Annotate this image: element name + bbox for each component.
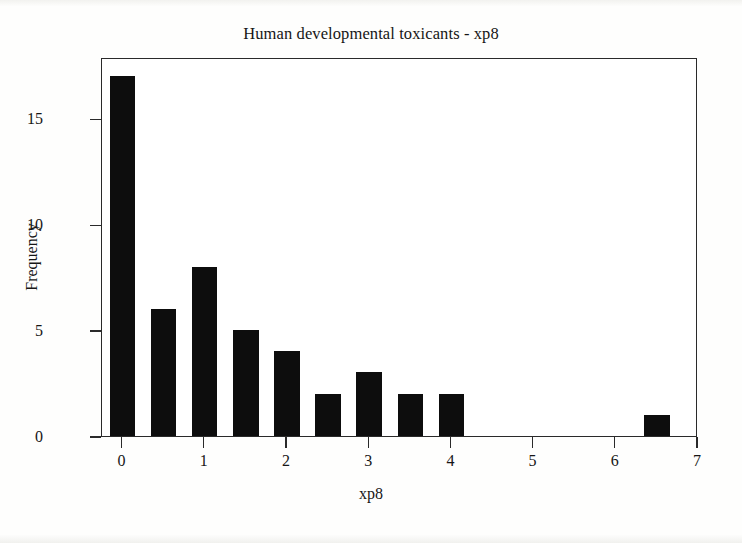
y-tick-label: 15	[27, 110, 43, 128]
bar	[110, 76, 135, 436]
bar	[192, 267, 217, 436]
x-axis: 01234567 xp8	[0, 437, 742, 543]
x-tick-label: 3	[364, 452, 372, 470]
plot-frame	[101, 58, 697, 437]
x-tick-mark	[285, 437, 286, 448]
scan-edge-top	[0, 0, 742, 6]
x-tick-label: 6	[611, 452, 619, 470]
x-tick-mark	[532, 437, 533, 448]
bar	[644, 415, 669, 436]
y-axis-label: Frequency	[23, 187, 41, 327]
x-tick-label: 5	[529, 452, 537, 470]
x-tick-mark	[121, 437, 122, 448]
x-tick-mark	[450, 437, 451, 448]
bar	[398, 394, 423, 436]
histogram-figure: Human developmental toxicants - xp8 0510…	[0, 0, 742, 543]
bar	[439, 394, 464, 436]
plot-area	[102, 59, 696, 436]
x-axis-label: xp8	[0, 485, 742, 503]
chart-title: Human developmental toxicants - xp8	[0, 24, 742, 44]
x-tick-label: 4	[446, 452, 454, 470]
bar	[274, 351, 299, 436]
x-tick-mark	[696, 437, 697, 448]
x-tick-mark	[368, 437, 369, 448]
x-tick-label: 0	[118, 452, 126, 470]
x-tick-label: 1	[200, 452, 208, 470]
x-tick-label: 7	[693, 452, 701, 470]
x-tick-mark	[614, 437, 615, 448]
x-tick-mark	[203, 437, 204, 448]
y-tick-mark	[90, 225, 101, 226]
y-tick-mark	[90, 330, 101, 331]
y-tick-mark	[90, 119, 101, 120]
bar	[356, 372, 381, 436]
bar	[315, 394, 340, 436]
bar	[233, 330, 258, 436]
bar	[151, 309, 176, 436]
x-tick-label: 2	[282, 452, 290, 470]
